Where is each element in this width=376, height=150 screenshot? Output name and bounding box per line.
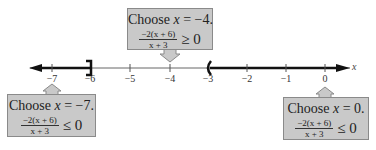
- numerator: −2(x + 6): [139, 29, 177, 40]
- test-box-title: Choose x = −4.: [128, 12, 212, 27]
- fraction: −2(x + 6) x + 3: [139, 29, 177, 50]
- tick-label: −7: [42, 73, 62, 84]
- relation: ≤ 0: [63, 117, 82, 134]
- fraction: −2(x + 6) x + 3: [295, 118, 333, 139]
- denominator: x + 3: [28, 126, 51, 136]
- test-box-right: Choose x = 0. −2(x + 6) x + 3 ≤ 0: [283, 97, 369, 140]
- fraction: −2(x + 6) x + 3: [21, 115, 59, 136]
- left-arrowhead-icon: [29, 64, 42, 72]
- right-arrowhead-icon: [336, 64, 350, 72]
- test-box-left: Choose x = −7. −2(x + 6) x + 3 ≤ 0: [7, 94, 96, 137]
- test-box-middle: Choose x = −4. −2(x + 6) x + 3 ≥ 0: [127, 8, 213, 50]
- denominator: x + 3: [303, 129, 326, 139]
- tick-label: −4: [160, 73, 180, 84]
- down-arrow-icon: [160, 49, 180, 62]
- axis-label-x: x: [352, 61, 356, 72]
- test-box-title: Choose x = −7.: [8, 98, 95, 113]
- number-line-figure: x −7 −6 −5 −4 −3 −2 −1 0 Choose x = −4. …: [0, 0, 376, 150]
- numerator: −2(x + 6): [21, 115, 59, 126]
- test-expression: −2(x + 6) x + 3 ≤ 0: [8, 115, 95, 136]
- numerator: −2(x + 6): [295, 118, 333, 129]
- relation: ≤ 0: [337, 120, 356, 137]
- tick-label: −2: [237, 73, 257, 84]
- tick-label: 0: [315, 73, 335, 84]
- test-expression: −2(x + 6) x + 3 ≥ 0: [128, 29, 212, 50]
- test-box-title: Choose x = 0.: [284, 101, 368, 116]
- tick-label: −1: [276, 73, 296, 84]
- test-expression: −2(x + 6) x + 3 ≤ 0: [284, 118, 368, 139]
- tick-label: −5: [120, 73, 140, 84]
- relation: ≥ 0: [181, 31, 200, 48]
- tick-label: −6: [80, 73, 100, 84]
- denominator: x + 3: [147, 40, 170, 50]
- tick-label: −3: [198, 73, 218, 84]
